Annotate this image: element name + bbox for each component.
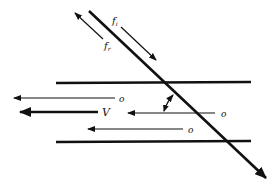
reflected-frequency-arrow — [75, 13, 103, 39]
scatterer-label-3: o — [188, 125, 194, 135]
incident-frequency-label: fi — [111, 15, 118, 27]
doppler-diagram: fi fr o V o o — [0, 0, 280, 185]
scatterer-label-2: o — [221, 109, 227, 119]
insonation-angle-arc — [164, 95, 173, 111]
scatterer-label-1: o — [119, 94, 125, 104]
incident-frequency-arrow — [121, 27, 156, 60]
vessel-wall-top — [56, 82, 251, 83]
reflected-frequency-label: fr — [103, 40, 112, 52]
ultrasound-beam-line — [89, 11, 266, 178]
vessel-wall-bottom — [56, 141, 251, 142]
velocity-label: V — [102, 106, 111, 119]
